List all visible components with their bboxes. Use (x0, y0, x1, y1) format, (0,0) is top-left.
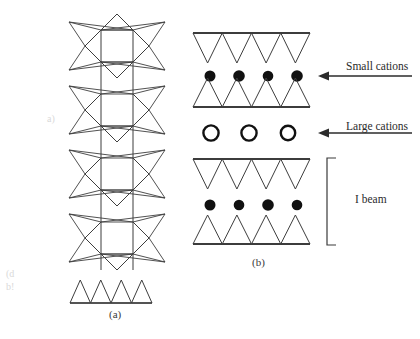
arrow-small-cations (318, 72, 412, 81)
scan-artifact-mark-1: a) (47, 113, 55, 124)
small-cation-row-top (205, 70, 303, 82)
label-large-cations: Large cations (346, 120, 408, 132)
tetra-row-up-upper (193, 78, 310, 107)
ring-unit-1 (69, 14, 165, 78)
ring-unit-4 (69, 214, 165, 270)
label-small-cations: Small cations (346, 60, 408, 72)
scan-artifact-mark-2: (d (6, 268, 14, 279)
large-cation (281, 126, 295, 140)
i-beam-bracket (327, 158, 336, 245)
scan-artifact-mark-3: b! (6, 281, 14, 292)
panel-a-tetrahedral-strip (70, 280, 152, 303)
large-cation (241, 125, 256, 140)
figure-root: Small cations Large cations I beam (a) (… (0, 0, 420, 339)
large-cation-row (203, 125, 295, 140)
figure-svg (0, 0, 420, 339)
small-cation (291, 70, 303, 82)
small-cation (262, 199, 274, 211)
tetra-row-down-ibeam (193, 159, 310, 189)
small-cation (292, 200, 303, 211)
small-cation (263, 71, 274, 82)
large-cation (203, 125, 218, 140)
small-cation (205, 200, 216, 211)
small-cation (233, 70, 245, 82)
small-cation-row-ibeam (205, 199, 303, 211)
caption-panel-b: (b) (252, 256, 265, 268)
label-i-beam: I beam (355, 193, 387, 205)
caption-panel-a: (a) (109, 308, 121, 320)
tetra-row-up-ibeam (193, 215, 310, 244)
tetra-row-down-top (193, 33, 310, 63)
ring-unit-2 (69, 86, 165, 142)
ring-unit-3 (69, 150, 165, 206)
small-cation (234, 200, 245, 211)
panel-a-chain (69, 14, 165, 270)
